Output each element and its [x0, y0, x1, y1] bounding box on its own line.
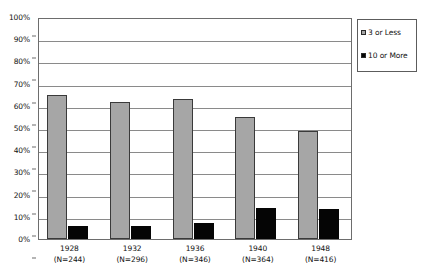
bar-1948-series-1: [319, 209, 339, 239]
bars-layer: [39, 19, 351, 239]
x-tick-sample-size: (N=244): [38, 254, 101, 265]
legend-entry-1[interactable]: 10 or More: [361, 52, 408, 60]
legend-label: 10 or More: [368, 52, 408, 60]
y-tick-mark: [32, 213, 36, 214]
x-axis: 1928(N=244)1932(N=296)1936(N=346)1940(N=…: [38, 243, 352, 275]
bar-1948-series-0: [298, 131, 318, 239]
bar-group: [235, 19, 276, 239]
legend-swatch-icon: [361, 53, 366, 58]
legend-swatch-icon: [361, 30, 366, 35]
y-tick-mark: [32, 258, 36, 259]
y-tick-label: 70%: [14, 81, 30, 89]
plot-area: [38, 18, 352, 240]
y-tick-mark: [32, 169, 36, 170]
y-tick-label: 60%: [14, 103, 30, 111]
x-tick-sample-size: (N=296): [101, 254, 164, 265]
x-tick-label: 1948(N=416): [289, 243, 352, 265]
x-tick-year: 1936: [186, 244, 205, 253]
y-tick-label: 10%: [14, 214, 30, 222]
legend-label: 3 or Less: [368, 29, 401, 37]
bar-1940-series-0: [235, 117, 255, 239]
x-tick-year: 1948: [311, 244, 330, 253]
y-tick-label: 50%: [14, 125, 30, 133]
x-tick-sample-size: (N=416): [289, 254, 352, 265]
bar-1936-series-1: [194, 223, 214, 239]
x-tick-label: 1928(N=244): [38, 243, 101, 265]
x-tick-label: 1932(N=296): [101, 243, 164, 265]
x-tick-label: 1940(N=364): [226, 243, 289, 265]
y-axis: 0%10%20%30%40%50%60%70%80%90%100%: [0, 18, 36, 240]
y-tick-label: 80%: [14, 59, 30, 67]
bar-group: [110, 19, 151, 239]
y-tick-label: 0%: [18, 236, 30, 244]
bar-1936-series-0: [173, 99, 193, 239]
chart-legend: 3 or Less10 or More: [357, 19, 417, 72]
y-tick-mark: [32, 36, 36, 37]
y-tick-label: 100%: [9, 14, 30, 22]
x-tick-sample-size: (N=346): [164, 254, 227, 265]
bar-group: [47, 19, 88, 239]
legend-entry-0[interactable]: 3 or Less: [361, 29, 401, 37]
y-tick-mark: [32, 147, 36, 148]
bar-1928-series-0: [47, 95, 67, 239]
bar-group: [173, 19, 214, 239]
bar-1940-series-1: [256, 208, 276, 239]
y-tick-mark: [32, 191, 36, 192]
x-tick-year: 1940: [248, 244, 267, 253]
bar-1932-series-1: [131, 226, 151, 239]
bar-group: [298, 19, 339, 239]
y-tick-mark: [32, 58, 36, 59]
x-tick-label: 1936(N=346): [164, 243, 227, 265]
y-tick-label: 40%: [14, 147, 30, 155]
y-tick-mark: [32, 80, 36, 81]
y-tick-label: 20%: [14, 192, 30, 200]
y-tick-mark: [32, 235, 36, 236]
y-tick-mark: [32, 102, 36, 103]
bar-1928-series-1: [68, 226, 88, 239]
bar-chart: 0%10%20%30%40%50%60%70%80%90%100% 1928(N…: [0, 0, 423, 278]
x-tick-year: 1932: [123, 244, 142, 253]
y-tick-mark: [32, 124, 36, 125]
x-tick-sample-size: (N=364): [226, 254, 289, 265]
x-tick-year: 1928: [60, 244, 79, 253]
y-tick-label: 90%: [14, 36, 30, 44]
bar-1932-series-0: [110, 102, 130, 239]
y-tick-label: 30%: [14, 170, 30, 178]
